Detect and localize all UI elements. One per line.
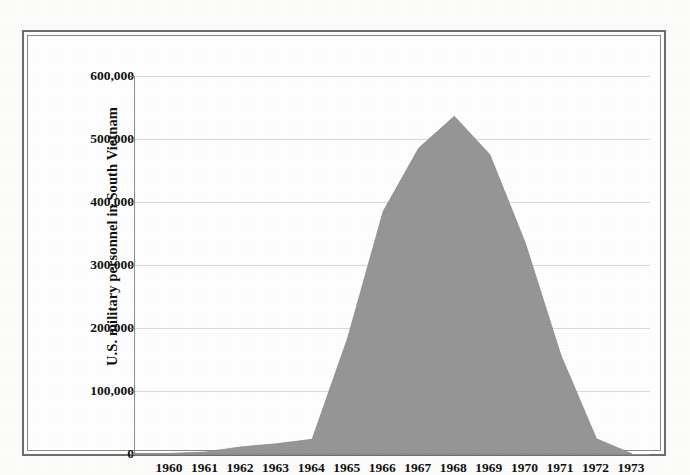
y-axis-tick-labels: 0100,000200,000300,000400,000500,000600,… [42, 32, 134, 458]
y-tick-label: 600,000 [42, 68, 134, 84]
area-polygon [135, 116, 632, 454]
x-tick-label: 1973 [601, 460, 661, 475]
gridline [135, 454, 650, 455]
y-tick-label: 400,000 [42, 194, 134, 210]
y-tick-label: 200,000 [42, 320, 134, 336]
y-tick-label: 0 [42, 446, 134, 462]
y-tick-label: 500,000 [42, 131, 134, 147]
chart-figure: U.S. military personnel in South Vietnam… [0, 0, 690, 475]
y-tick-label: 300,000 [42, 257, 134, 273]
x-axis-tick-labels: 1960196119621963196419651966196719681969… [134, 460, 659, 475]
figure-frame-outer: U.S. military personnel in South Vietnam… [22, 30, 666, 456]
y-tick-label: 100,000 [42, 383, 134, 399]
area-series-vietnam-troops [135, 76, 650, 454]
plot-area [134, 76, 650, 454]
